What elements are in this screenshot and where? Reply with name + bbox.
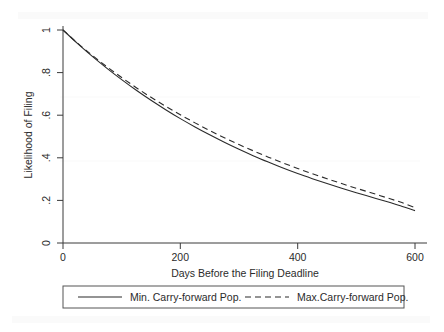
x-axis: 0 200 400 600 Days Before the Filing Dea… <box>60 243 427 279</box>
x-tick-label-200: 200 <box>172 251 190 263</box>
y-axis-title: Likelihood of Filing <box>22 91 34 178</box>
x-axis-title: Days Before the Filing Deadline <box>171 267 319 279</box>
line-chart: 0 .2 .4 .6 .8 1 Likelihood of Filing 0 2… <box>0 0 444 332</box>
series-line-min-carry-forward <box>63 30 415 211</box>
x-tick-label-0: 0 <box>60 251 66 263</box>
y-axis-tick-labels: 0 .2 .4 .6 .8 1 <box>40 27 52 246</box>
series-line-max-carry-forward <box>63 30 415 208</box>
x-axis-ticks <box>63 243 415 249</box>
x-axis-tick-labels: 0 200 400 600 <box>60 251 424 263</box>
y-axis-ticks <box>57 30 63 243</box>
y-tick-label-2: .4 <box>40 153 52 162</box>
y-tick-label-5: 1 <box>40 27 52 33</box>
y-tick-label-1: .2 <box>40 196 52 205</box>
legend-label-min: Min. Carry-forward Pop. <box>130 291 241 303</box>
legend: Min. Carry-forward Pop. Max.Carry-forwar… <box>63 286 408 308</box>
y-axis: 0 .2 .4 .6 .8 1 Likelihood of Filing <box>22 26 63 246</box>
legend-label-max: Max.Carry-forward Pop. <box>297 291 408 303</box>
y-tick-label-0: 0 <box>40 240 52 246</box>
x-tick-label-400: 400 <box>289 251 307 263</box>
figure-container: 0 .2 .4 .6 .8 1 Likelihood of Filing 0 2… <box>0 0 444 332</box>
plot-area <box>63 30 415 211</box>
x-tick-label-600: 600 <box>406 251 424 263</box>
y-tick-label-4: .8 <box>40 68 52 77</box>
y-tick-label-3: .6 <box>40 111 52 120</box>
